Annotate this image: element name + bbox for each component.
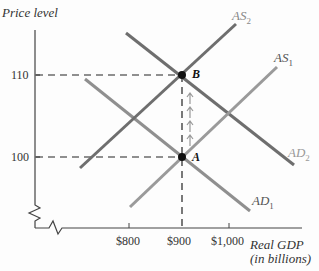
- ad1-curve: [85, 79, 250, 211]
- point-b-marker: [178, 71, 186, 79]
- ad2-label: AD2: [288, 145, 310, 163]
- x-axis-title-line1: Real GDP: [250, 238, 311, 252]
- y-axis-title: Price level: [2, 5, 58, 21]
- as2-label: AS2: [232, 8, 251, 26]
- x-axis-title-line2: (in billions): [250, 252, 311, 266]
- y-tick-100: 100: [11, 150, 29, 165]
- x-axis: [35, 221, 302, 234]
- chart-canvas: [0, 0, 319, 271]
- y-axis: [29, 30, 40, 228]
- as1-curve: [130, 67, 277, 207]
- up-arrows-icon: [187, 93, 193, 146]
- point-b-label: B: [192, 67, 200, 82]
- x-tick-800: $800: [116, 234, 140, 249]
- ad2-curve: [126, 33, 294, 165]
- x-axis-title: Real GDP (in billions): [250, 238, 311, 266]
- as2-curve: [80, 24, 236, 168]
- ad1-label: AD1: [252, 193, 274, 211]
- y-tick-110: 110: [11, 68, 29, 83]
- point-a-marker: [178, 153, 186, 161]
- x-tick-1000: $1,000: [211, 234, 244, 249]
- as1-label: AS1: [274, 50, 293, 68]
- x-tick-900: $900: [167, 234, 191, 249]
- point-a-label: A: [192, 150, 200, 165]
